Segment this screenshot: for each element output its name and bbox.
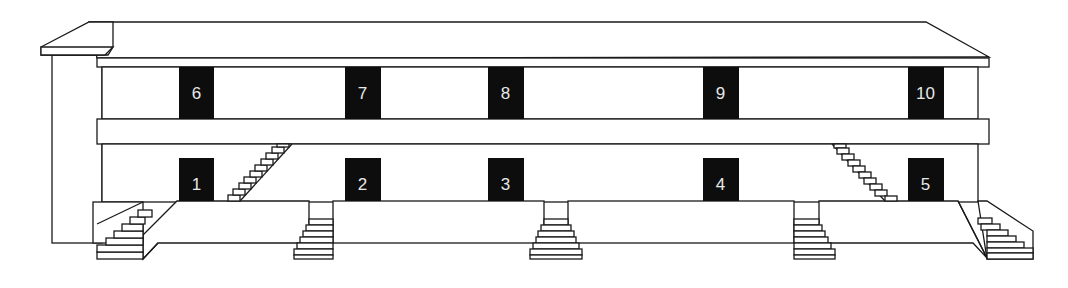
door-8-label: 8 <box>488 84 523 104</box>
door-9-label: 9 <box>703 84 738 104</box>
door-6-label: 6 <box>179 84 214 104</box>
roof <box>41 22 989 58</box>
door-3-label: 3 <box>488 175 523 195</box>
building-diagram: 6 7 8 9 10 1 2 3 4 5 <box>0 0 1068 288</box>
door-5-label: 5 <box>908 175 943 195</box>
stairs-left-entrance <box>93 202 152 259</box>
balcony-band <box>97 119 989 144</box>
door-7-label: 7 <box>345 84 380 104</box>
door-1-label: 1 <box>179 175 214 195</box>
door-2-label: 2 <box>345 175 380 195</box>
door-10-label: 10 <box>908 84 943 104</box>
cornice <box>97 58 989 67</box>
upper-floor-wall <box>102 67 978 119</box>
door-4-label: 4 <box>703 175 738 195</box>
